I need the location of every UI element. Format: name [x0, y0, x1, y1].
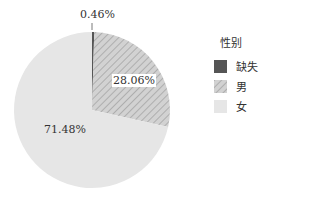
- legend-item-female: 女: [214, 96, 258, 116]
- legend-item-missing: 缺失: [214, 56, 258, 76]
- swatch-missing-icon: [214, 60, 227, 73]
- swatch-female-icon: [214, 100, 227, 113]
- label-missing: 0.46%: [80, 8, 115, 21]
- legend-item-male: 男: [214, 76, 258, 96]
- label-female: 71.48%: [44, 123, 86, 136]
- swatch-male-icon: [214, 80, 227, 93]
- legend: 性别 缺失 男 女: [214, 34, 258, 116]
- label-male: 28.06%: [112, 74, 156, 87]
- legend-title: 性别: [220, 34, 258, 50]
